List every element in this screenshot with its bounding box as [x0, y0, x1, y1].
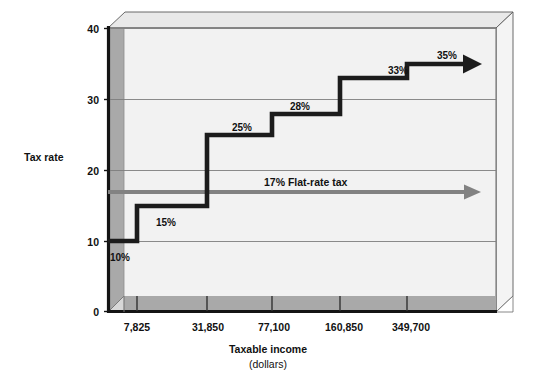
top-bevel-face: [108, 12, 513, 28]
y-tick-label-40: 40: [87, 23, 99, 35]
y-axis-title: Tax rate: [24, 151, 64, 163]
floor-shade: [108, 296, 496, 312]
x-tick-label-1: 7,825: [124, 321, 150, 333]
y-tick-label-0: 0: [93, 306, 99, 318]
flat-rate-label: 17% Flat-rate tax: [264, 176, 348, 188]
x-tick-label-4: 160,850: [325, 321, 363, 333]
plot-area-background: [108, 28, 496, 312]
bracket-label-25: 25%: [232, 122, 252, 133]
x-tick-label-5: 349,700: [392, 321, 430, 333]
bracket-label-10: 10%: [110, 252, 130, 263]
x-axis-subtitle: (dollars): [249, 358, 287, 370]
y-tick-label-10: 10: [87, 236, 99, 248]
bracket-label-28: 28%: [290, 101, 310, 112]
x-tick-labels: 7,825 31,850 77,100 160,850 349,700: [124, 321, 430, 333]
x-axis-title: Taxable income: [229, 343, 307, 355]
bracket-label-35: 35%: [437, 50, 457, 61]
x-tick-label-3: 77,100: [258, 321, 290, 333]
tax-rate-step-chart: 40 30 20 10 0 7,825 31,850 77,100 160,85…: [0, 0, 537, 379]
bracket-label-33: 33%: [388, 65, 408, 76]
bracket-label-15: 15%: [156, 217, 176, 228]
x-tick-label-2: 31,850: [192, 321, 224, 333]
left-wall-shade: [108, 28, 124, 312]
right-wall-face: [496, 12, 513, 312]
y-tick-label-30: 30: [87, 94, 99, 106]
chart-canvas: 40 30 20 10 0 7,825 31,850 77,100 160,85…: [0, 0, 537, 379]
y-tick-label-20: 20: [87, 165, 99, 177]
y-tick-labels: 40 30 20 10 0: [87, 23, 99, 318]
